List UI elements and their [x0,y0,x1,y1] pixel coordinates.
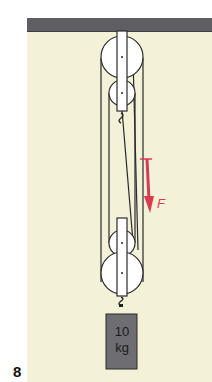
force-arrow [140,159,154,213]
movable-pulley-strap [117,218,127,296]
force-label: F [157,196,165,211]
pulley-system [0,0,212,382]
fixed-pulley-strap [117,31,127,111]
mass-unit: kg [107,340,137,356]
figure-number: 8 [13,364,21,379]
mass-label: 10 kg [107,324,137,356]
force-symbol: F [157,196,165,211]
mass-value: 10 [107,324,137,340]
